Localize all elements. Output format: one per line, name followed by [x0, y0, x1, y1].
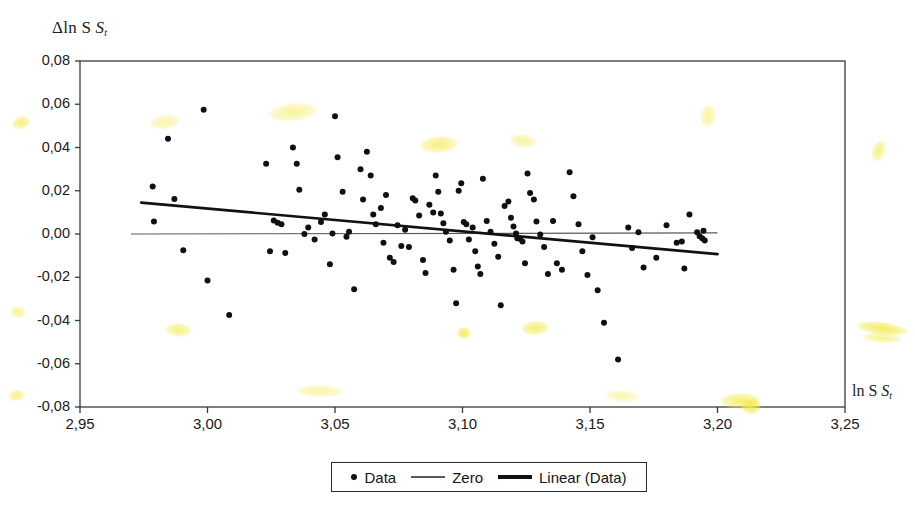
data-point [351, 286, 357, 292]
data-point [635, 229, 641, 235]
data-point [443, 229, 449, 235]
data-point [226, 312, 232, 318]
data-point [576, 221, 582, 227]
x-tick-label: 3,05 [303, 415, 367, 432]
data-point [570, 193, 576, 199]
legend-item-data[interactable]: Data [351, 469, 396, 486]
data-point [615, 356, 621, 362]
data-point [205, 277, 211, 283]
data-point [332, 113, 338, 119]
data-point [267, 248, 273, 254]
data-point [263, 161, 269, 167]
legend-label: Zero [452, 469, 483, 486]
data-point [335, 154, 341, 160]
chart-figure: Δln SSt ln SSt 0,080,060,040,020,00-0,02… [0, 0, 915, 514]
data-point [358, 166, 364, 172]
data-point [579, 248, 585, 254]
data-point [488, 229, 494, 235]
legend-item-linear[interactable]: Linear (Data) [498, 469, 627, 486]
data-point [406, 244, 412, 250]
data-point [477, 271, 483, 277]
data-point [378, 205, 384, 211]
data-point [327, 261, 333, 267]
y-tick-label: -0,06 [12, 355, 70, 371]
thin-line-marker-icon [411, 476, 445, 477]
data-point [702, 237, 708, 243]
data-point [625, 225, 631, 231]
data-point [498, 302, 504, 308]
data-point [453, 300, 459, 306]
zero-line-path [131, 233, 718, 234]
data-point [456, 188, 462, 194]
y-tick-label: -0,02 [12, 268, 70, 284]
x-tick-label: 3,00 [176, 415, 240, 432]
data-point [451, 267, 457, 273]
data-point [373, 221, 379, 227]
data-point [522, 260, 528, 266]
data-point [491, 241, 497, 247]
data-point [391, 259, 397, 265]
data-point [664, 222, 670, 228]
data-point [527, 190, 533, 196]
x-tick-label: 3,20 [686, 415, 750, 432]
data-point [590, 234, 596, 240]
legend-label: Data [364, 469, 396, 486]
data-point [484, 218, 490, 224]
data-point [171, 196, 177, 202]
data-point [458, 180, 464, 186]
x-tick-marks [80, 407, 845, 413]
data-points [150, 107, 708, 363]
data-point [296, 187, 302, 193]
data-point [674, 240, 680, 246]
data-point [584, 272, 590, 278]
y-tick-label: 0,00 [12, 225, 70, 241]
data-point [629, 245, 635, 251]
data-point [508, 215, 514, 221]
y-tick-label: 0,08 [12, 52, 70, 68]
y-tick-label: 0,04 [12, 139, 70, 155]
data-point [420, 257, 426, 263]
data-point [438, 210, 444, 216]
data-point [282, 250, 288, 256]
data-point [430, 209, 436, 215]
thick-line-marker-icon [498, 475, 532, 478]
legend-item-zero[interactable]: Zero [411, 469, 483, 486]
data-point [440, 220, 446, 226]
data-point [567, 169, 573, 175]
data-point [433, 173, 439, 179]
data-point [495, 254, 501, 260]
data-point [301, 231, 307, 237]
data-point [463, 221, 469, 227]
x-tick-label: 3,25 [813, 415, 877, 432]
chart-legend: Data Zero Linear (Data) [331, 462, 647, 492]
data-point [480, 176, 486, 182]
data-point [398, 243, 404, 249]
data-point [180, 247, 186, 253]
x-tick-label: 3,10 [431, 415, 495, 432]
data-point [559, 267, 565, 273]
data-point [318, 219, 324, 225]
data-point [679, 239, 685, 245]
data-point [165, 136, 171, 142]
legend-label: Linear (Data) [539, 469, 627, 486]
data-point [447, 237, 453, 243]
data-point [426, 202, 432, 208]
data-point [681, 266, 687, 272]
data-point [525, 170, 531, 176]
data-point [305, 225, 311, 231]
data-point [641, 265, 647, 271]
dot-marker-icon [351, 474, 357, 480]
data-point [370, 212, 376, 218]
data-point [402, 227, 408, 233]
data-point [329, 231, 335, 237]
data-point [472, 248, 478, 254]
data-point [290, 145, 296, 151]
data-point [364, 149, 370, 155]
data-point [380, 240, 386, 246]
data-point [686, 212, 692, 218]
data-point [505, 199, 511, 205]
data-point [435, 189, 441, 195]
data-point [416, 213, 422, 219]
data-point [519, 239, 525, 245]
data-point [151, 218, 157, 224]
